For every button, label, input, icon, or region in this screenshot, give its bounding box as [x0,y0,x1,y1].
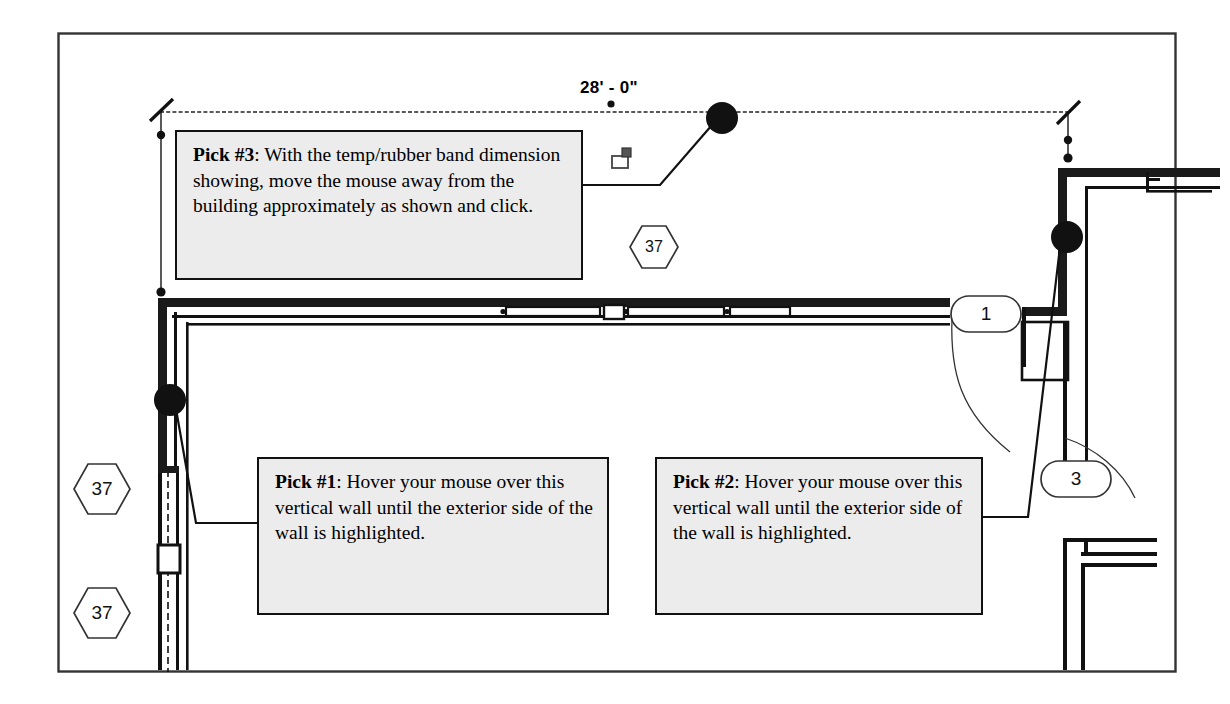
leader-line-pick-3 [582,125,712,185]
room-boundary-arc-upper [952,318,1010,452]
right-exterior-wall[interactable] [1022,168,1220,494]
oval-tag-3-label: 3 [1071,468,1082,489]
hex-tag-center[interactable]: 37 [630,226,678,268]
figure-canvas: 37 37 37 1 3 28' - 0" Pick #3: With the … [0,0,1230,704]
dimension-grip-left-top[interactable] [157,131,165,139]
left-exterior-wall[interactable] [158,298,189,672]
top-wall-window-group[interactable] [500,305,790,319]
oval-tag-3[interactable]: 3 [1041,461,1111,497]
window-opening[interactable] [158,545,180,573]
oval-tag-1-label: 1 [981,303,992,324]
dimension-text-grip[interactable] [607,100,614,107]
callout-pick-3[interactable]: Pick #3: With the temp/rubber band dimen… [175,130,583,280]
window-opening[interactable] [628,307,724,316]
hex-tag-left-lower[interactable]: 37 [74,588,130,638]
hex-tag-left-upper-label: 37 [91,478,112,499]
pick-marker-2[interactable] [1051,221,1083,253]
oval-tag-1[interactable]: 1 [951,296,1021,332]
window-opening[interactable] [730,307,790,316]
callout-pick-1[interactable]: Pick #1: Hover your mouse over this vert… [257,457,609,615]
dimension-value-label: 28' - 0" [580,78,638,98]
bottom-right-wall-corner[interactable] [1063,538,1157,670]
callout-pick-1-lead: Pick #1 [275,471,336,492]
dimension-grip-right-bottom[interactable] [1063,153,1072,162]
dimension-grip-right-top[interactable] [1064,136,1072,144]
pick-marker-3[interactable] [706,102,738,134]
callout-pick-3-lead: Pick #3 [193,144,254,165]
floor-plan-drawing: 37 37 37 1 3 [0,0,1230,704]
callout-pick-2-lead: Pick #2 [673,471,734,492]
hex-tag-left-upper[interactable]: 37 [74,464,130,514]
callout-pick-2[interactable]: Pick #2: Hover your mouse over this vert… [655,457,983,615]
window-opening[interactable] [604,305,624,319]
hex-tag-center-label: 37 [645,238,663,255]
pick-marker-1[interactable] [154,384,186,416]
dimension-cursor-icon [612,148,631,168]
window-opening[interactable] [506,307,600,316]
dimension-grip-left-bottom[interactable] [156,287,165,296]
hex-tag-left-lower-label: 37 [91,602,112,623]
